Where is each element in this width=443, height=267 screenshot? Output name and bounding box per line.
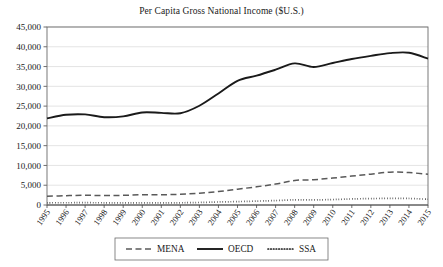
chart-svg: 05,00010,00015,00020,00025,00030,00035,0… — [0, 0, 443, 267]
x-axis-tick-label: 2002 — [167, 207, 185, 227]
y-axis-tick-label: 45,000 — [16, 22, 41, 32]
y-axis-tick-label: 0 — [37, 200, 42, 210]
x-axis-tick-label: 2009 — [301, 207, 319, 227]
y-axis-tick-label: 40,000 — [16, 42, 41, 52]
y-axis-tick-label: 25,000 — [16, 101, 41, 111]
series-line-mena — [47, 172, 428, 196]
plot-area-frame — [47, 27, 428, 205]
x-axis-tick-label: 1998 — [91, 207, 109, 227]
legend-label-ssa[interactable]: SSA — [299, 244, 316, 254]
x-axis-tick-label: 1995 — [34, 207, 52, 227]
x-axis-tick-label: 1996 — [53, 207, 71, 227]
x-axis-tick-label: 2013 — [377, 207, 395, 227]
x-axis-tick-label: 2006 — [244, 207, 262, 227]
y-axis-tick-label: 10,000 — [16, 161, 41, 171]
legend-label-oecd[interactable]: OECD — [228, 244, 254, 254]
x-axis-tick-label: 2011 — [339, 207, 357, 227]
x-axis-tick-label: 2012 — [358, 207, 376, 227]
x-axis-tick-label: 2001 — [148, 207, 166, 227]
x-axis-tick-label: 2000 — [129, 207, 147, 227]
y-axis-tick-label: 15,000 — [16, 141, 41, 151]
x-axis-tick-label: 2005 — [225, 207, 243, 227]
x-axis-tick-label: 2010 — [320, 207, 338, 227]
x-axis-tick-label: 1997 — [72, 207, 90, 227]
y-axis-tick-label: 5,000 — [21, 180, 42, 190]
y-axis-tick-label: 35,000 — [16, 62, 41, 72]
y-axis-tick-label: 20,000 — [16, 121, 41, 131]
series-line-ssa — [47, 198, 428, 202]
x-axis-tick-label: 1999 — [110, 207, 128, 227]
x-axis-tick-label: 2014 — [396, 207, 414, 227]
x-axis-tick-labels: 1995199619971998199920002001200220032004… — [34, 205, 433, 227]
x-axis-tick-label: 2015 — [415, 207, 433, 227]
x-axis-tick-label: 2004 — [206, 207, 224, 227]
legend-label-mena[interactable]: MENA — [157, 244, 185, 254]
x-axis-tick-label: 2008 — [282, 207, 300, 227]
chart-container: Per Capita Gross National Income ($U.S.)… — [0, 0, 443, 267]
series-line-oecd — [47, 52, 428, 118]
y-axis-tick-label: 30,000 — [16, 82, 41, 92]
x-axis-tick-label: 2003 — [186, 207, 204, 227]
x-axis-tick-label: 2007 — [263, 207, 281, 227]
y-gridlines: 05,00010,00015,00020,00025,00030,00035,0… — [16, 22, 428, 210]
